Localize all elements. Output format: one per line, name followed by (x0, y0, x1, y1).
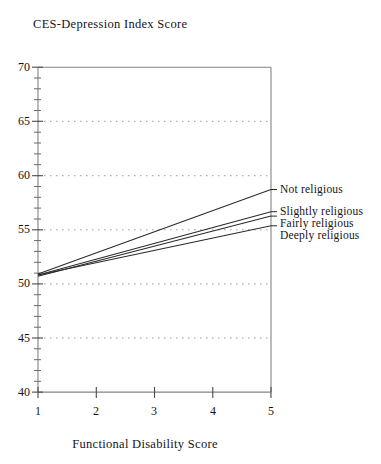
series-label-fairly-religious: Fairly religious (280, 217, 354, 229)
series-line-not-religious (38, 190, 271, 275)
y-tick-label-40: 40 (2, 385, 30, 400)
series-line-deeply-religious (38, 226, 271, 275)
series-label-deeply-religious: Deeply religious (280, 229, 360, 241)
x-tick-label-5: 5 (259, 404, 283, 419)
y-tick-label-70: 70 (2, 60, 30, 75)
x-tick-label-1: 1 (26, 404, 50, 419)
chart-container: CES-Depression Index Score (0, 0, 381, 464)
y-tick-label-45: 45 (2, 331, 30, 346)
series-label-slightly-religious: Slightly religious (280, 205, 363, 217)
y-tick-label-65: 65 (2, 114, 30, 129)
y-tick-label-55: 55 (2, 222, 30, 237)
y-tick-label-50: 50 (2, 276, 30, 291)
series-label-not-religious: Not religious (280, 183, 343, 195)
x-tick-label-4: 4 (201, 404, 225, 419)
series-line-slightly-religious (38, 212, 271, 275)
data-series-lines (38, 190, 271, 277)
y-tick-label-60: 60 (2, 168, 30, 183)
legend-leader-lines (271, 190, 277, 226)
x-axis-title: Functional Disability Score (0, 437, 290, 452)
x-tick-label-3: 3 (142, 404, 166, 419)
x-tick-label-2: 2 (84, 404, 108, 419)
gridlines (38, 121, 271, 338)
